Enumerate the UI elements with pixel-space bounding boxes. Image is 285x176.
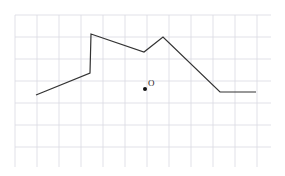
origin-point-label: O xyxy=(148,78,155,88)
polyline-plot: O xyxy=(0,0,285,176)
series-layer xyxy=(36,34,256,95)
origin-point-dot xyxy=(143,87,147,91)
marker-point-group: O xyxy=(143,78,155,91)
grid-layer xyxy=(15,15,271,167)
data-polyline xyxy=(36,34,256,95)
figure-canvas: O xyxy=(0,0,285,176)
